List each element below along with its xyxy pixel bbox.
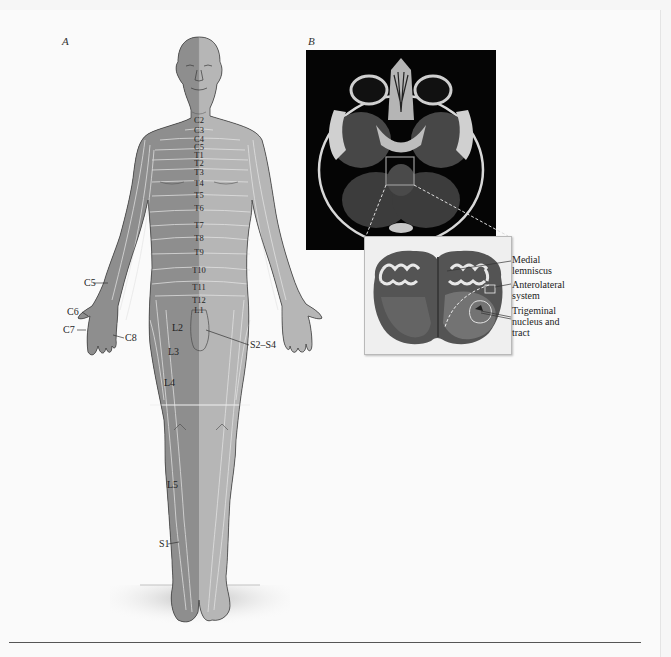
medulla-histology-inset bbox=[364, 236, 512, 355]
annotation-anterolateral-system: Anterolateral system bbox=[512, 279, 565, 301]
annotation-trigeminal-nucleus-tract: Trigeminal nucleus and tract bbox=[512, 305, 560, 338]
zoom-callout-lines bbox=[0, 0, 671, 657]
bottom-divider bbox=[9, 642, 641, 643]
annotation-medial-lemniscus: Medial lemniscus bbox=[512, 254, 552, 276]
